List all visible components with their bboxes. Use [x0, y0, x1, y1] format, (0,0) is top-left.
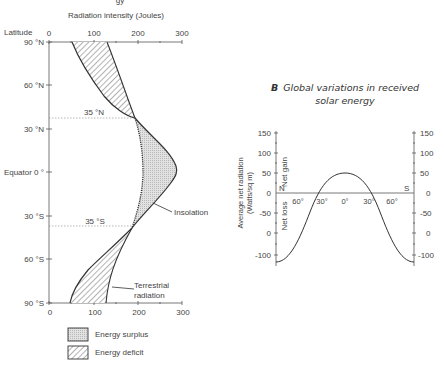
marker-35n: 35 °N — [84, 108, 104, 117]
b-xtick-30n: 30° — [316, 197, 327, 206]
x-tick-top-200: 200 — [131, 29, 145, 38]
chart-b: BGlobal variations in received solar ene… — [236, 82, 435, 266]
chart-a: gy Radiation intensity (Joules) Latitude… — [4, 0, 208, 359]
x-tick-top-0: 0 — [47, 29, 52, 38]
x-tick-bottom-0: 0 — [48, 308, 53, 317]
x-tick-bottom-100: 100 — [88, 308, 102, 317]
y-tick-30s: 30 °S — [24, 212, 44, 221]
b-ytick-right-neg50: -50 — [420, 209, 432, 218]
b-ytick-right-neg100: -100 — [418, 251, 435, 260]
chart-b-ylabel-2: (Watts/sq m) — [245, 171, 254, 214]
energy-deficit-north — [72, 42, 135, 118]
chart-b-title-line1: BGlobal variations in received — [271, 82, 420, 93]
y-tick-equator: Equator 0 ° — [4, 168, 44, 177]
insolation-label: Insolation — [174, 208, 208, 217]
chart-b-letter: B — [271, 82, 278, 93]
legend-swatch-surplus — [68, 328, 88, 341]
y-tick-90s: 90 °S — [24, 299, 44, 308]
b-ytick-right-0b: 0 — [426, 229, 431, 238]
b-ytick-right-0: 0 — [426, 189, 431, 198]
energy-deficit-south — [70, 228, 132, 303]
chart-b-title-line2: solar energy — [315, 95, 375, 106]
terrestrial-label-2: radiation — [134, 291, 165, 300]
legend: Energy surplus Energy deficit — [68, 328, 148, 359]
legend-surplus-label: Energy surplus — [95, 330, 148, 339]
b-xtick-60n: 60° — [292, 197, 303, 206]
chart-a-xlabel: Radiation intensity (Joules) — [68, 11, 164, 20]
b-ytick-left-neg100: -100 — [255, 251, 272, 260]
marker-35s: 35 °S — [85, 217, 105, 226]
net-radiation-curve — [276, 173, 414, 262]
y-tick-60n: 60 °N — [24, 81, 44, 90]
b-ytick-left-0b: 0 — [267, 229, 272, 238]
terrestrial-leader — [112, 287, 134, 289]
chart-a-title-fragment: gy — [116, 0, 124, 5]
latitude-label: Latitude — [4, 28, 33, 37]
b-ytick-left-150: 150 — [258, 129, 272, 138]
chart-b-ylabel-1: Average net radiation — [236, 157, 245, 228]
net-loss-label: Net loss — [280, 202, 289, 231]
legend-swatch-deficit — [68, 346, 88, 359]
b-ytick-left-50: 50 — [262, 169, 271, 178]
b-ytick-right-100: 100 — [420, 149, 434, 158]
figure: gy Radiation intensity (Joules) Latitude… — [0, 0, 444, 366]
b-ytick-left-0: 0 — [267, 189, 272, 198]
legend-deficit-label: Energy deficit — [95, 348, 144, 357]
b-ytick-right-50: 50 — [420, 169, 429, 178]
b-xtick-60s: 60° — [386, 197, 397, 206]
b-xtick-0: 0° — [341, 197, 348, 206]
b-ytick-left-100: 100 — [258, 149, 272, 158]
insolation-leader — [153, 203, 172, 212]
y-tick-60s: 60 °S — [24, 255, 44, 264]
y-tick-90n: 90 °N — [24, 38, 44, 47]
x-tick-top-100: 100 — [87, 29, 101, 38]
x-tick-top-300: 300 — [175, 29, 189, 38]
x-tick-bottom-300: 300 — [176, 308, 190, 317]
south-label: S — [404, 184, 409, 193]
b-ytick-left-neg50: -50 — [259, 209, 271, 218]
y-tick-30n: 30 °N — [24, 125, 44, 134]
x-tick-bottom-200: 200 — [132, 308, 146, 317]
b-ytick-right-150: 150 — [420, 129, 434, 138]
b-xtick-30s: 30° — [363, 197, 374, 206]
terrestrial-label-1: Terrestrial — [134, 281, 169, 290]
net-gain-label: Net gain — [280, 157, 289, 187]
